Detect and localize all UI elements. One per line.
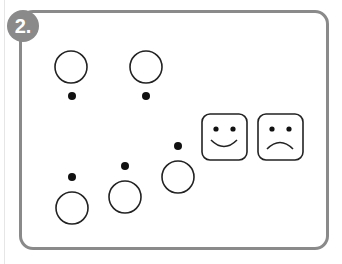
dot-marker <box>68 92 76 100</box>
smiley-face-icon[interactable] <box>202 114 247 160</box>
dot-marker <box>174 142 182 150</box>
sad-face-icon[interactable] <box>258 114 303 160</box>
bottom-item-2 <box>109 162 141 213</box>
circle-shape <box>56 192 88 224</box>
top-item-1 <box>55 51 87 100</box>
circle-shape <box>162 161 194 193</box>
top-item-2 <box>130 51 162 100</box>
bottom-item-3 <box>162 142 194 193</box>
circle-shape <box>130 51 162 83</box>
circle-shape <box>109 181 141 213</box>
dot-marker <box>142 92 150 100</box>
circle-shape <box>55 51 87 83</box>
dot-marker <box>121 162 129 170</box>
dot-marker <box>68 173 76 181</box>
exercise-illustration <box>0 0 342 264</box>
bottom-item-1 <box>56 173 88 224</box>
